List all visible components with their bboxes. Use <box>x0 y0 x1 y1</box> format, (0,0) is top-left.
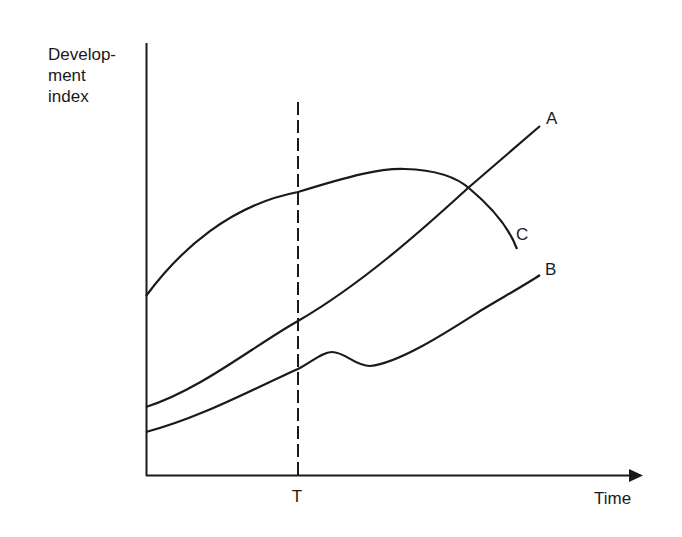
x-axis-arrow-icon <box>629 469 643 482</box>
curve-a <box>146 126 540 407</box>
development-index-diagram: Develop- ment index A C B T Time <box>0 0 682 537</box>
x-axis-label: Time <box>594 489 631 508</box>
curve-c <box>146 169 517 296</box>
plot-area: A C B T Time <box>0 0 682 537</box>
curve-label-b: B <box>545 260 556 279</box>
curve-label-a: A <box>546 109 558 128</box>
time-marker-label: T <box>292 487 302 506</box>
curve-label-c: C <box>516 225 528 244</box>
curve-b <box>146 275 540 432</box>
